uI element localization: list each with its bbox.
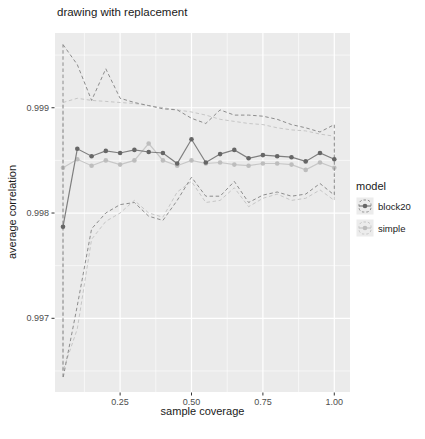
legend-title: model <box>356 180 411 192</box>
legend: model block20 simple <box>356 180 411 241</box>
point-block20 <box>232 148 237 153</box>
legend-item-block20: block20 <box>356 197 411 215</box>
point-simple <box>161 158 166 163</box>
x-axis-label: sample coverage <box>55 405 350 417</box>
point-block20 <box>261 153 266 158</box>
point-block20 <box>275 154 280 159</box>
point-block20 <box>289 155 294 160</box>
point-simple <box>104 158 109 163</box>
legend-item-label: block20 <box>378 201 411 212</box>
point-simple <box>232 162 237 167</box>
point-block20 <box>146 150 151 155</box>
point-block20 <box>175 161 180 166</box>
legend-key-point <box>363 204 368 209</box>
point-block20 <box>246 156 251 161</box>
point-simple <box>189 158 194 163</box>
point-simple <box>275 161 280 166</box>
point-block20 <box>161 151 166 156</box>
point-block20 <box>218 152 223 157</box>
point-simple <box>146 141 151 146</box>
point-simple <box>218 160 223 165</box>
y-tick-label: 0.998 <box>26 208 49 218</box>
point-block20 <box>89 154 94 159</box>
point-simple <box>261 161 266 166</box>
y-axis-label: average correlation <box>6 165 18 259</box>
point-simple <box>303 168 308 173</box>
point-block20 <box>75 147 80 152</box>
point-block20 <box>132 148 137 153</box>
point-block20 <box>303 159 308 164</box>
point-block20 <box>204 160 209 165</box>
legend-item-simple: simple <box>356 219 411 237</box>
point-block20 <box>189 137 194 142</box>
point-simple <box>318 160 323 165</box>
y-tick-label: 0.999 <box>26 103 49 113</box>
point-block20 <box>104 149 109 154</box>
point-simple <box>89 163 94 168</box>
legend-key-block20 <box>356 197 374 215</box>
point-block20 <box>318 151 323 156</box>
point-block20 <box>61 224 66 229</box>
legend-key-point <box>363 226 368 231</box>
point-block20 <box>332 157 337 162</box>
point-simple <box>132 158 137 163</box>
figure: drawing with replacement 0.250.500.751.0… <box>0 0 425 439</box>
point-simple <box>289 162 294 167</box>
legend-item-label: simple <box>378 223 405 234</box>
y-tick-label: 0.997 <box>26 313 49 323</box>
legend-key-simple <box>356 219 374 237</box>
point-simple <box>246 163 251 168</box>
point-block20 <box>118 151 123 156</box>
point-simple <box>118 162 123 167</box>
